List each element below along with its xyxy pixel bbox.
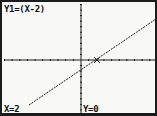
- cursor-y-value: Y=0: [83, 104, 98, 114]
- function-line-y1: [29, 19, 156, 105]
- calculator-graph-screen: Y1=(X-2) X=2 Y=0: [0, 0, 157, 116]
- graph-canvas: [2, 2, 157, 116]
- cursor-x-value: X=2: [4, 104, 19, 114]
- equation-label: Y1=(X-2): [4, 4, 45, 14]
